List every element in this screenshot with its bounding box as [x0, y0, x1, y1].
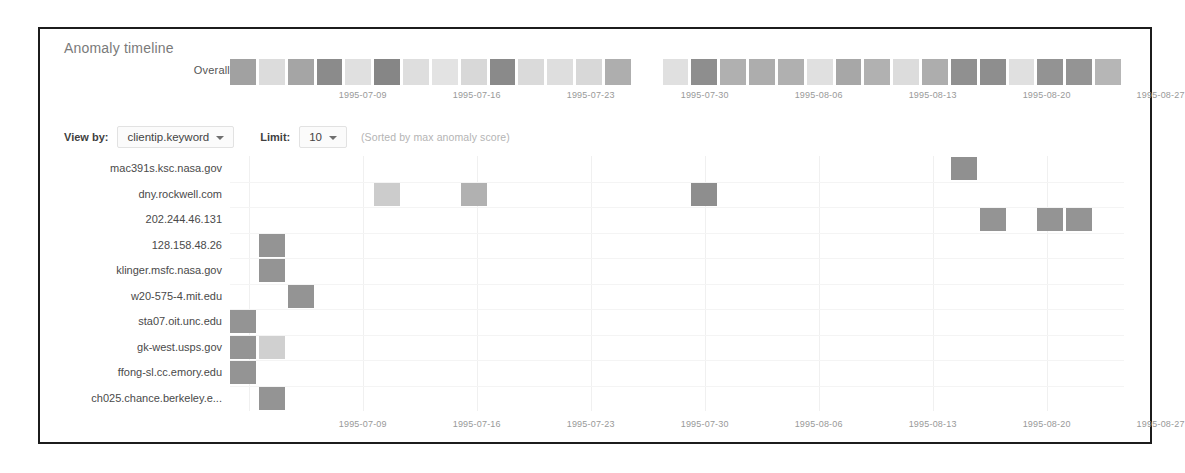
overall-heat-cell[interactable] [663, 59, 689, 85]
heatmap-cell[interactable] [230, 336, 256, 359]
heatmap-cell[interactable] [1037, 208, 1063, 231]
overall-heat-cell[interactable] [230, 59, 256, 85]
overall-heat-cell[interactable] [490, 59, 516, 85]
heatmap-row [230, 309, 1124, 335]
limit-label: Limit: [260, 131, 290, 143]
overall-heat-cell[interactable] [951, 59, 977, 85]
overall-swimlane: Overall 1995-07-091995-07-161995-07-2319… [40, 59, 1150, 119]
heatmap-row-label[interactable]: dny.rockwell.com [40, 182, 230, 208]
heatmap-row-label[interactable]: w20-575-4.mit.edu [40, 284, 230, 310]
axis-tick-label: 1995-08-13 [909, 419, 957, 429]
heatmap-cell[interactable] [259, 234, 285, 257]
heatmap-cell[interactable] [288, 285, 314, 308]
limit-select[interactable]: 10 [299, 126, 347, 148]
axis-tick-label: 1995-07-23 [567, 90, 615, 100]
heatmap-row [230, 207, 1124, 233]
overall-heat-cell[interactable] [317, 59, 343, 85]
heatmap-row [230, 156, 1124, 182]
heatmap-row-label[interactable]: ch025.chance.berkeley.e... [40, 386, 230, 412]
overall-heat-cell[interactable] [259, 59, 285, 85]
overall-heat-cell[interactable] [374, 59, 400, 85]
heatmap-cell[interactable] [230, 361, 256, 384]
overall-heat-cell[interactable] [518, 59, 544, 85]
heatmap-cell[interactable] [980, 208, 1006, 231]
axis-tick-label: 1995-08-06 [795, 419, 843, 429]
heatmap-row [230, 360, 1124, 386]
overall-heat-cell[interactable] [864, 59, 890, 85]
overall-heat-track[interactable] [230, 59, 1124, 85]
chart-controls: View by: clientip.keyword Limit: 10 (Sor… [64, 124, 510, 150]
overall-heat-cell[interactable] [778, 59, 804, 85]
axis-tick-label: 1995-07-30 [681, 90, 729, 100]
axis-tick-label: 1995-08-27 [1137, 90, 1185, 100]
overall-heat-cell[interactable] [807, 59, 833, 85]
heatmap-row-label[interactable]: 202.244.46.131 [40, 207, 230, 233]
axis-tick-label: 1995-08-27 [1137, 419, 1185, 429]
page-title: Anomaly timeline [64, 40, 174, 56]
overall-heat-cell[interactable] [461, 59, 487, 85]
overall-row-label: Overall [40, 64, 230, 76]
heatmap-cell[interactable] [259, 387, 285, 410]
limit-value: 10 [309, 131, 322, 143]
overall-heat-cell[interactable] [720, 59, 746, 85]
heatmap-row-label[interactable]: mac391s.ksc.nasa.gov [40, 156, 230, 182]
overall-heat-cell[interactable] [1066, 59, 1092, 85]
timeline-axis-top: 1995-07-091995-07-161995-07-231995-07-30… [230, 90, 1124, 106]
view-by-value: clientip.keyword [127, 131, 209, 143]
overall-heat-cell[interactable] [576, 59, 602, 85]
axis-tick-label: 1995-07-09 [339, 90, 387, 100]
axis-tick-label: 1995-07-16 [453, 419, 501, 429]
axis-tick-label: 1995-08-06 [795, 90, 843, 100]
heatmap-cell[interactable] [461, 183, 487, 206]
overall-heat-cell[interactable] [634, 59, 660, 85]
sort-note: (Sorted by max anomaly score) [361, 131, 510, 143]
heatmap-cell[interactable] [259, 259, 285, 282]
row-label-column: mac391s.ksc.nasa.govdny.rockwell.com202.… [40, 156, 230, 411]
view-by-select[interactable]: clientip.keyword [117, 126, 234, 148]
heatmap-cell[interactable] [1066, 208, 1092, 231]
overall-heat-cell[interactable] [1037, 59, 1063, 85]
axis-tick-label: 1995-08-20 [1023, 419, 1071, 429]
overall-heat-cell[interactable] [836, 59, 862, 85]
axis-tick-label: 1995-08-20 [1023, 90, 1071, 100]
heatmap-cell[interactable] [951, 157, 977, 180]
chevron-down-icon [329, 136, 337, 140]
chevron-down-icon [216, 136, 224, 140]
anomaly-heatmap: mac391s.ksc.nasa.govdny.rockwell.com202.… [40, 156, 1150, 411]
heatmap-row-label[interactable]: klinger.msfc.nasa.gov [40, 258, 230, 284]
timeline-axis-bottom: 1995-07-091995-07-161995-07-231995-07-30… [230, 419, 1124, 435]
overall-heat-cell[interactable] [345, 59, 371, 85]
overall-heat-cell[interactable] [922, 59, 948, 85]
heatmap-row-label[interactable]: ffong-sl.cc.emory.edu [40, 360, 230, 386]
overall-heat-cell[interactable] [605, 59, 631, 85]
axis-tick-label: 1995-07-23 [567, 419, 615, 429]
axis-tick-label: 1995-07-30 [681, 419, 729, 429]
axis-tick-label: 1995-08-13 [909, 90, 957, 100]
overall-heat-cell[interactable] [1095, 59, 1121, 85]
overall-heat-cell[interactable] [403, 59, 429, 85]
heatmap-row [230, 182, 1124, 208]
axis-tick-label: 1995-07-16 [453, 90, 501, 100]
heatmap-cell[interactable] [230, 310, 256, 333]
overall-heat-cell[interactable] [1009, 59, 1035, 85]
overall-heat-cell[interactable] [980, 59, 1006, 85]
anomaly-timeline-panel: Anomaly timeline Overall 1995-07-091995-… [38, 27, 1152, 444]
heatmap-cell[interactable] [691, 183, 717, 206]
heatmap-row [230, 386, 1124, 412]
heatmap-row-label[interactable]: gk-west.usps.gov [40, 335, 230, 361]
view-by-label: View by: [64, 131, 108, 143]
overall-heat-cell[interactable] [547, 59, 573, 85]
heatmap-plot-area[interactable] [230, 156, 1124, 411]
heatmap-row [230, 233, 1124, 259]
heatmap-row-label[interactable]: sta07.oit.unc.edu [40, 309, 230, 335]
overall-heat-cell[interactable] [749, 59, 775, 85]
heatmap-cell[interactable] [259, 336, 285, 359]
overall-heat-cell[interactable] [288, 59, 314, 85]
overall-heat-cell[interactable] [432, 59, 458, 85]
overall-heat-cell[interactable] [893, 59, 919, 85]
heatmap-cell[interactable] [374, 183, 400, 206]
axis-tick-label: 1995-07-09 [339, 419, 387, 429]
heatmap-row-label[interactable]: 128.158.48.26 [40, 233, 230, 259]
overall-heat-cell[interactable] [691, 59, 717, 85]
